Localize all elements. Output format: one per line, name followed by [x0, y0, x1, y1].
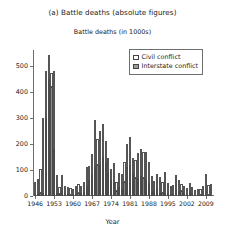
x-tick-label: 1967	[84, 200, 100, 207]
legend-swatch-interstate	[133, 64, 139, 70]
bar-segment-civil	[53, 71, 55, 149]
x-tick	[35, 196, 36, 199]
page-title: (a) Battle deaths (absolute figures)	[0, 8, 225, 17]
x-tick-label: 1995	[160, 200, 176, 207]
x-tick-label: 1974	[103, 200, 119, 207]
x-tick-label: 2002	[179, 200, 195, 207]
y-tick	[30, 170, 33, 171]
bar-segment-civil	[113, 163, 115, 181]
x-tick	[149, 196, 150, 199]
x-tick-label: 1953	[46, 200, 62, 207]
y-tick-label: 200	[16, 140, 28, 148]
x-tick-label: 1988	[141, 200, 157, 207]
chart-figure: (a) Battle deaths (absolute figures) Bat…	[0, 0, 225, 237]
x-tick-label: 2009	[198, 200, 214, 207]
y-tick-label: 500	[16, 62, 28, 70]
x-tick	[187, 196, 188, 199]
x-axis-label: Year	[0, 218, 225, 226]
legend-item: Interstate conflict	[133, 62, 198, 71]
x-tick	[73, 196, 74, 199]
x-tick	[111, 196, 112, 199]
chart-legend: Civil conflictInterstate conflict	[129, 49, 203, 75]
bar-segment-civil	[210, 184, 212, 195]
y-tick-label: 400	[16, 88, 28, 96]
x-tick	[130, 196, 131, 199]
legend-swatch-civil	[133, 55, 139, 61]
y-tick	[30, 92, 33, 93]
x-tick-label: 1981	[122, 200, 138, 207]
x-tick	[168, 196, 169, 199]
x-tick	[54, 196, 55, 199]
legend-label: Interstate conflict	[142, 63, 199, 69]
x-tick	[92, 196, 93, 199]
x-tick	[206, 196, 207, 199]
legend-item: Civil conflict	[133, 53, 198, 62]
legend-label: Civil conflict	[142, 54, 181, 60]
y-tick-label: 300	[16, 114, 28, 122]
y-tick	[30, 196, 33, 197]
y-axis-spine	[33, 50, 34, 196]
y-tick	[30, 66, 33, 67]
x-tick-label: 1946	[27, 200, 43, 207]
chart-subtitle: Battle deaths (in 1000s)	[0, 28, 225, 36]
y-tick-label: 0	[24, 192, 28, 200]
y-tick-label: 100	[16, 166, 28, 174]
bar-stack	[210, 184, 212, 196]
y-tick	[30, 144, 33, 145]
x-tick-label: 1960	[65, 200, 81, 207]
y-tick	[30, 118, 33, 119]
